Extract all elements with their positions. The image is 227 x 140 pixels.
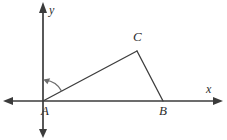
segment-cb	[137, 51, 163, 101]
angle-arc-at-a	[43, 78, 61, 91]
vertex-label-c: C	[133, 30, 142, 43]
triangle-abc	[43, 51, 163, 101]
x-axis-label: x	[206, 83, 211, 95]
segment-ac	[43, 51, 137, 101]
vertex-label-a: A	[41, 104, 49, 117]
y-axis-up-arrowhead	[39, 2, 47, 13]
y-axis-label: y	[49, 4, 54, 16]
x-axis-right-arrowhead	[213, 97, 223, 105]
vertex-label-b: B	[159, 104, 167, 117]
geometry-figure: A B C x y	[0, 0, 227, 140]
figure-canvas	[0, 0, 227, 140]
x-axis-left-arrowhead	[3, 97, 13, 105]
y-axis-down-arrowhead	[39, 129, 47, 138]
x-axis	[3, 97, 223, 105]
